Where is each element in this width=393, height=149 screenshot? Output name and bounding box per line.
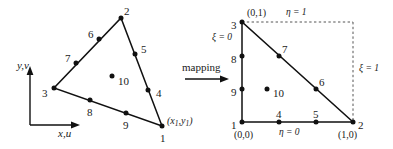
node-label-physical-5: 5 [141,44,147,55]
node-label-natural-2: 2 [358,120,364,131]
node-dot-physical-5 [133,52,138,57]
node-label-physical-7: 7 [65,53,71,64]
node-label-physical-3: 3 [42,88,48,99]
node-dot-physical-6 [97,37,102,42]
edge-label-eta-top: η = 1 [286,8,307,18]
corner-coord-node1: (0,0) [234,130,253,140]
node-label-natural-3: 3 [231,20,237,31]
node-dot-physical-4 [146,88,151,93]
node-label-physical-4: 4 [156,88,162,99]
corner-coord-node3: (0,1) [247,8,266,18]
node-dot-physical-3 [52,86,57,91]
node-dot-natural-3 [240,20,245,25]
node-dot-natural-9 [240,87,245,92]
node-label-natural-7: 7 [282,44,288,55]
node-label-natural-8: 8 [231,54,237,65]
node-label-physical-8: 8 [87,107,93,118]
node-label-natural-6: 6 [319,77,325,88]
mapping-arrow [185,75,229,82]
node-dot-natural-4 [277,120,282,125]
node-dot-natural-2 [351,120,356,125]
node-dot-natural-7 [277,54,282,59]
physical-axes [27,66,80,128]
node-dot-natural-10 [265,87,270,92]
corner-coord-node2: (1,0) [338,130,357,140]
node-label-natural-1: 1 [231,120,237,131]
node-label-natural-5: 5 [313,109,319,120]
physical-element-edges [54,18,162,126]
node-label-natural-9: 9 [231,87,237,98]
edge-label-xi-left: ξ = 0 [212,33,232,43]
node-dot-natural-8 [240,54,245,59]
node-dot-physical-9 [124,111,129,116]
node-dot-physical-2 [119,16,124,21]
edge-label-eta-bottom: η = 0 [279,128,300,138]
node-dot-physical-8 [88,98,93,103]
node-label-physical-9: 9 [123,120,129,131]
node-dot-natural-1 [240,120,245,125]
node-label-natural-4: 4 [276,109,282,120]
vertex-coord-label-x1y1: (x1,y1) [167,116,193,126]
node-dot-physical-1 [160,124,165,129]
node-dot-natural-6 [314,87,319,92]
node-label-natural-10: 10 [273,88,284,99]
edge-label-xi-right: ξ = 1 [359,64,379,74]
node-label-physical-6: 6 [88,29,94,40]
node-label-physical-1: 1 [160,133,166,144]
mapping-label: mapping [182,62,221,73]
node-dot-physical-10 [110,74,115,79]
axis-label-y: y,v [17,60,29,71]
node-dot-physical-7 [74,61,79,66]
figure-canvas: y,v x,u (x1,y1) mapping η = 1 ξ = 0 ξ = … [0,0,393,149]
node-dot-natural-5 [314,120,319,125]
axis-label-x: x,u [58,128,71,139]
node-label-physical-2: 2 [124,6,130,17]
natural-element-edges [242,22,353,122]
node-label-physical-10: 10 [118,76,129,87]
